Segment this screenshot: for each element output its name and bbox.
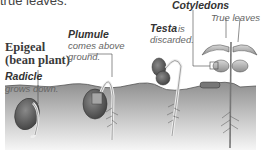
- diagram-title-line2: (bean plant): [5, 53, 70, 67]
- radicle-label: Radicle: [5, 70, 42, 82]
- diagram-title-line1: Epigeal: [5, 40, 45, 54]
- epigeal-germination-diagram: true leaves. Epigeal (bean plant) Radicl…: [0, 0, 263, 152]
- cotyledons-label: Cotyledons: [172, 0, 229, 11]
- intro-text-fragment: true leaves.: [0, 0, 67, 8]
- plumule-desc-line2: ground.: [68, 51, 100, 62]
- testa-label: Testa: [150, 22, 177, 34]
- plumule-desc-line1: comes above: [68, 40, 125, 51]
- plumule-label: Plumule: [68, 28, 109, 40]
- radicle-desc: grows down.: [5, 83, 58, 94]
- true-leaves-label: True leaves: [211, 12, 260, 23]
- testa-desc-line1: is: [178, 23, 185, 34]
- testa-desc-line2: discarded.: [150, 34, 194, 45]
